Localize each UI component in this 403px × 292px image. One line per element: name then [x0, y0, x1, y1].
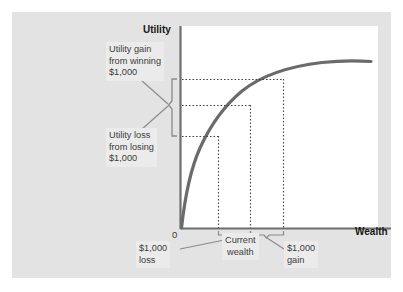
- annotation-current-wealth: Current wealth: [222, 233, 259, 260]
- leader-line-utility-gain: [141, 80, 168, 104]
- annotation-loss-axis: $1,000 loss: [136, 241, 170, 268]
- utility-function-figure: Utility Wealth 0 Utility gain from winni…: [0, 0, 403, 292]
- leader-line-gain-axis: [267, 238, 284, 249]
- annotation-utility-loss: Utility loss from losing $1,000: [106, 128, 157, 167]
- y-axis-title: Utility: [143, 24, 171, 35]
- annotation-utility-gain: Utility gain from winning $1,000: [106, 42, 164, 81]
- diagram-graphics: [0, 0, 403, 292]
- origin-label: 0: [172, 229, 177, 240]
- x-axis-title: Wealth: [355, 226, 388, 237]
- annotation-gain-axis: $1,000 gain: [284, 241, 318, 268]
- leader-line-utility-loss: [141, 106, 168, 130]
- utility-brace: [169, 79, 178, 136]
- utility-curve: [182, 61, 372, 228]
